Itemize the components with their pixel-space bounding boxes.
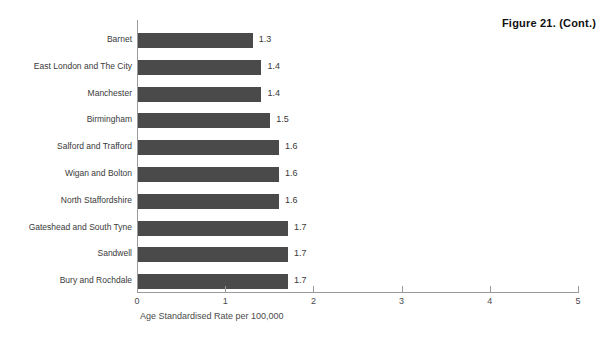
category-label: East London and The City [34,61,132,71]
bar [138,167,279,182]
x-axis-tick-label: 1 [223,296,228,306]
x-axis-tick [578,286,579,293]
bar [138,247,288,262]
category-label: Bury and Rochdale [60,275,132,285]
x-axis-tick [402,286,403,293]
x-axis-tick-label: 2 [311,296,316,306]
bar [138,113,270,128]
bar [138,87,261,102]
bar [138,140,279,155]
x-axis-tick [490,286,491,293]
bar-row: Salford and Trafford1.6 [0,135,614,162]
x-axis-tick [313,286,314,293]
bar-value-label: 1.6 [285,141,298,151]
bar-row: Wigan and Bolton1.6 [0,162,614,189]
bar-row: Sandwell1.7 [0,242,614,269]
bar-value-label: 1.3 [259,34,272,44]
bar-value-label: 1.4 [267,88,280,98]
bar [138,60,261,75]
category-label: Salford and Trafford [57,141,132,151]
category-label: Birmingham [87,114,132,124]
bar [138,221,288,236]
bar-row: Birmingham1.5 [0,108,614,135]
bar-value-label: 1.6 [285,168,298,178]
bar [138,33,253,48]
x-axis-title: Age Standardised Rate per 100,000 [140,311,284,321]
bar-value-label: 1.5 [276,114,289,124]
bar-value-label: 1.7 [294,275,307,285]
x-axis-tick [137,286,138,293]
bar-value-label: 1.4 [267,61,280,71]
bar [138,194,279,209]
bar-value-label: 1.6 [285,195,298,205]
category-label: Barnet [107,34,132,44]
x-axis-tick [225,286,226,293]
bar-row: Gateshead and South Tyne1.7 [0,216,614,243]
bar-row: Barnet1.3 [0,28,614,55]
x-axis-tick-label: 3 [399,296,404,306]
bar [138,274,288,289]
category-label: Wigan and Bolton [65,168,132,178]
category-label: Manchester [88,88,132,98]
x-axis-line [137,292,578,293]
x-axis-tick-label: 4 [487,296,492,306]
category-label: North Staffordshire [61,195,132,205]
bar-value-label: 1.7 [294,222,307,232]
category-label: Sandwell [98,248,133,258]
bar-row: North Staffordshire1.6 [0,189,614,216]
bar-value-label: 1.7 [294,248,307,258]
x-axis-tick-label: 5 [575,296,580,306]
y-axis-line [137,20,138,292]
bar-row: East London and The City1.4 [0,55,614,82]
x-axis-tick-label: 0 [134,296,139,306]
plot-area: Barnet1.3East London and The City1.4Manc… [0,0,614,340]
figure-container: Figure 21. (Cont.) Barnet1.3East London … [0,0,614,340]
category-label: Gateshead and South Tyne [29,222,132,232]
bar-row: Manchester1.4 [0,82,614,109]
